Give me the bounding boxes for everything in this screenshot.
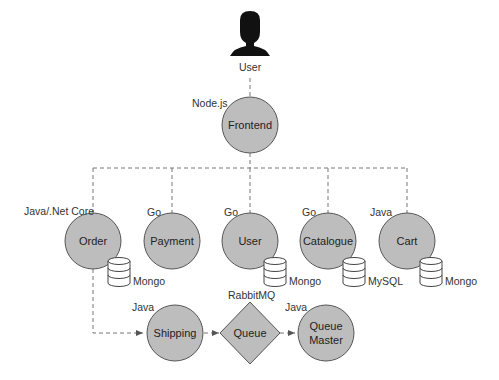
catalogue-db-icon [343,258,365,287]
shipping-tech-label: Java [132,302,154,313]
diagram-canvas [0,0,499,380]
frontend-name: Frontend [220,119,280,132]
queue-tech-label: RabbitMQ [228,290,275,301]
order-tech-label: Java/.Net Core [24,206,94,217]
queue-master-node [298,305,354,361]
cart-db-icon [420,258,442,287]
user-label: User [239,62,261,73]
catalogue-tech-label: Go [302,207,316,218]
order-db-icon [108,258,130,287]
cart-tech-label: Java [370,207,392,218]
catalogue-name: Catalogue [296,235,360,248]
payment-name: Payment [142,235,202,248]
queue-name: Queue [220,327,280,340]
catalogue-db-label: MySQL [368,276,403,287]
shipping-name: Shipping [145,327,205,340]
frontend-tech-label: Node.js [192,98,228,109]
queue-master-name-line1: Queue [296,320,356,333]
user-service-name: User [220,235,280,248]
payment-tech-label: Go [147,207,161,218]
user-silhouette-icon [230,11,270,56]
order-db-label: Mongo [133,276,165,287]
queue-master-tech-label: Java [285,302,307,313]
order-name: Order [63,235,123,248]
cart-db-label: Mongo [445,276,477,287]
user-db-label: Mongo [289,276,321,287]
cart-name: Cart [377,235,437,248]
user-db-icon [264,258,286,287]
queue-master-name-line2: Master [296,334,356,347]
user-service-tech-label: Go [224,207,238,218]
